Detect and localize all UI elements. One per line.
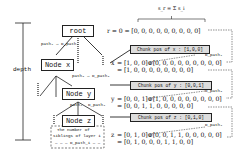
sum-brace bbox=[138, 16, 205, 22]
edge-x-right bbox=[56, 76, 72, 86]
node-y: Node y bbox=[62, 88, 95, 100]
chunk-pos-y: Chunk pos of y : [0,0,1] bbox=[130, 81, 212, 90]
row-z-line2: = [0, 1, 0, 0, 0, 1, 1, 0, 0] bbox=[117, 138, 193, 145]
row-x-line2: = [1, 0, 0, 0, 0, 0, 0, 0, 0] bbox=[117, 66, 193, 73]
siblings-note-line3: — — — D_path_i — — bbox=[55, 141, 100, 145]
edge-x-left bbox=[40, 76, 56, 96]
row-r-vector: [0, 0, 0, 0, 0, 0, 0, 0, 0] bbox=[131, 27, 200, 34]
diagram-lines bbox=[0, 0, 243, 152]
edge-label-y-left: path₃ bbox=[70, 103, 83, 107]
row-x-line1: = [1, 0, 0]⊕[0, 0, 0, 0, 0, 0, 0, 0, 0] bbox=[117, 59, 222, 66]
row-r-eq: = 0 = bbox=[112, 27, 130, 34]
siblings-note-line2: siblings of layer i bbox=[53, 134, 101, 138]
chunk-pos-z: Chunk pos of z : [0,1,0] bbox=[130, 113, 212, 122]
row-y-line1: = [0, 0, 1]⊕[1, 0, 0, 0, 0, 0, 0, 0, 0] bbox=[117, 95, 222, 102]
row-x-var: x bbox=[111, 59, 114, 66]
node-root: root bbox=[62, 25, 94, 37]
row-z-line1: = [0, 1, 0]⊕[0, 0, 1, 1, 0, 0, 0, 0, 0] bbox=[117, 131, 222, 138]
edge-root-right bbox=[83, 36, 102, 55]
edge-label-root-x: path₁ → D_path₁ bbox=[41, 42, 79, 46]
dpath-label-z: D_path₃ bbox=[205, 123, 223, 127]
sum-formula: s_r = Σ s_i bbox=[158, 5, 185, 11]
depth-label: depth bbox=[13, 66, 31, 73]
dpath-label-x: D_path₁ bbox=[205, 53, 223, 57]
chunk-pos-x: Chunk pos of x : [1,0,0] bbox=[130, 45, 210, 54]
edge-label-y-right: D_path₃ bbox=[88, 103, 106, 107]
row-y-var: y bbox=[111, 95, 114, 102]
row-r: r = 0 = [0, 0, 0, 0, 0, 0, 0, 0, 0] bbox=[107, 27, 200, 34]
row-r-var: r bbox=[107, 27, 110, 34]
dpath-label-y: D_path₂ bbox=[205, 89, 223, 93]
siblings-note-line1: The number of bbox=[57, 128, 90, 132]
edge-label-x-y: path₂ → D_path₂ bbox=[72, 74, 110, 78]
node-z: Node z bbox=[62, 115, 95, 127]
node-x: Node x bbox=[41, 59, 74, 71]
row-y-line2: = [0, 0, 1, 1, 0, 0, 0, 0, 0] bbox=[117, 102, 193, 109]
row-z-var: z bbox=[111, 131, 114, 138]
